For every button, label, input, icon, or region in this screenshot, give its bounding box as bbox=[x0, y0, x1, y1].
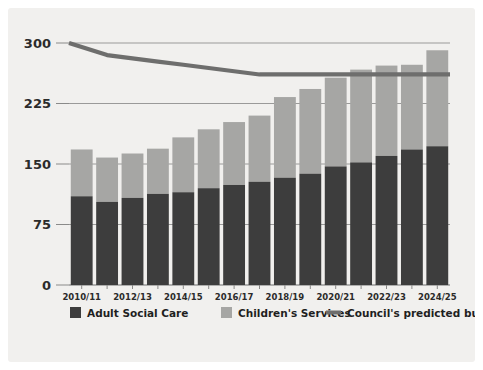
bar-segment-childrens-services bbox=[299, 89, 321, 174]
bars-group bbox=[71, 50, 448, 285]
bar-segment-childrens-services bbox=[274, 97, 296, 178]
chart-legend: Adult Social CareChildren's ServicesCoun… bbox=[70, 307, 475, 319]
bar-segment-adult-social-care bbox=[71, 196, 93, 285]
y-axis-tick-label: 300 bbox=[24, 36, 51, 51]
legend-label: Adult Social Care bbox=[87, 307, 188, 319]
bar-segment-childrens-services bbox=[96, 158, 118, 202]
bar-segment-adult-social-care bbox=[401, 149, 423, 285]
x-axis-tick-label: 2020/21 bbox=[316, 292, 355, 302]
bar-segment-childrens-services bbox=[376, 66, 398, 156]
bar-segment-adult-social-care bbox=[147, 194, 169, 285]
legend-swatch-childrens-services bbox=[221, 307, 232, 318]
x-axis-tick-label: 2016/17 bbox=[215, 292, 254, 302]
y-axis-tick-label: 0 bbox=[42, 278, 51, 293]
legend-swatch-budget-line bbox=[326, 311, 341, 315]
bar-segment-childrens-services bbox=[198, 129, 220, 188]
x-axis-tick-label: 2024/25 bbox=[418, 292, 457, 302]
bar-segment-childrens-services bbox=[401, 65, 423, 150]
bar-segment-adult-social-care bbox=[198, 188, 220, 285]
y-axis-ticks-group: 075150225300 bbox=[24, 36, 69, 293]
bar-segment-adult-social-care bbox=[172, 192, 194, 285]
bar-segment-adult-social-care bbox=[325, 166, 347, 285]
bar-segment-adult-social-care bbox=[376, 156, 398, 285]
chart-figure: 075150225300 2010/112012/132014/152016/1… bbox=[8, 8, 475, 362]
bar-segment-childrens-services bbox=[350, 70, 372, 163]
bar-segment-childrens-services bbox=[426, 50, 448, 146]
legend-label: Council's predicted budget bbox=[347, 307, 475, 319]
x-axis-tick-label: 2012/13 bbox=[113, 292, 152, 302]
bar-segment-adult-social-care bbox=[299, 174, 321, 285]
bar-segment-adult-social-care bbox=[96, 202, 118, 285]
stacked-bar-chart: 075150225300 2010/112012/132014/152016/1… bbox=[8, 8, 475, 362]
y-axis-tick-label: 225 bbox=[24, 96, 51, 111]
x-axis-tick-label: 2018/19 bbox=[266, 292, 305, 302]
y-axis-tick-label: 150 bbox=[24, 157, 51, 172]
bar-segment-childrens-services bbox=[223, 122, 245, 185]
bar-segment-adult-social-care bbox=[350, 162, 372, 285]
legend-swatch-adult-social-care bbox=[70, 307, 81, 318]
y-axis-tick-label: 75 bbox=[33, 217, 51, 232]
x-axis-tick-label: 2022/23 bbox=[367, 292, 406, 302]
bar-segment-childrens-services bbox=[249, 116, 271, 182]
bar-segment-adult-social-care bbox=[122, 198, 144, 285]
bar-segment-childrens-services bbox=[147, 149, 169, 194]
bar-segment-childrens-services bbox=[172, 137, 194, 192]
bar-segment-childrens-services bbox=[122, 154, 144, 198]
bar-segment-adult-social-care bbox=[223, 185, 245, 285]
x-axis-tick-label: 2014/15 bbox=[164, 292, 203, 302]
x-axis-tick-label: 2010/11 bbox=[62, 292, 101, 302]
bar-segment-adult-social-care bbox=[274, 178, 296, 285]
bar-segment-adult-social-care bbox=[426, 146, 448, 285]
x-axis-ticks-group: 2010/112012/132014/152016/172018/192020/… bbox=[62, 292, 456, 302]
bar-segment-adult-social-care bbox=[249, 182, 271, 285]
bar-segment-childrens-services bbox=[325, 78, 347, 167]
bar-segment-childrens-services bbox=[71, 149, 93, 196]
